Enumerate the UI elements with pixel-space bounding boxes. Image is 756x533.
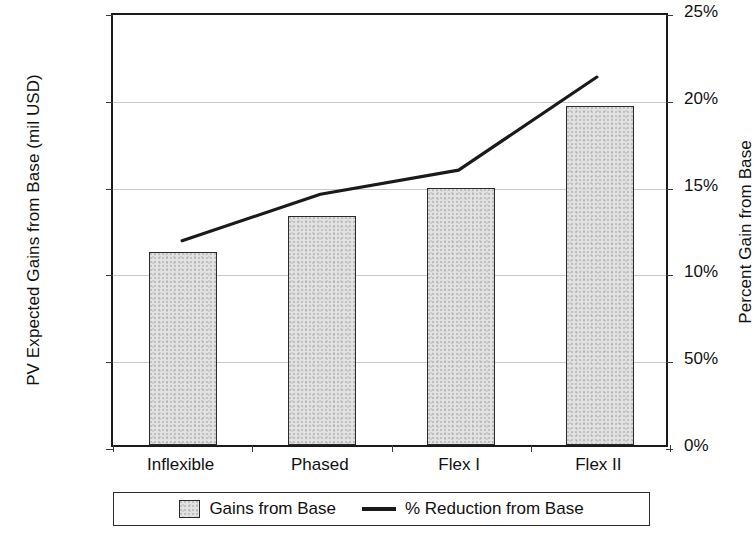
- x-axis-tick: [670, 445, 671, 452]
- plot-area: [111, 13, 668, 447]
- y-axis-right-tick: [666, 362, 673, 363]
- bar: [149, 252, 217, 445]
- y-axis-left-tick: [106, 102, 113, 103]
- x-axis-tick-label: Phased: [240, 455, 400, 475]
- bar: [427, 188, 495, 445]
- y-axis-right-tick-label: 25%: [684, 2, 718, 22]
- x-axis-tick: [531, 445, 532, 452]
- y-axis-right-tick-label: 0%: [684, 436, 709, 456]
- legend-line-icon: [362, 507, 396, 511]
- y-axis-left-tick: [106, 15, 113, 16]
- y-axis-right-tick-label: 15%: [684, 176, 718, 196]
- legend-swatch-icon: [179, 500, 200, 518]
- legend-entry-bar: Gains from Base: [179, 499, 336, 519]
- y-axis-right-tick-label: 50%: [684, 349, 718, 369]
- y-axis-right-tick: [666, 189, 673, 190]
- y-axis-right-tick: [666, 102, 673, 103]
- x-axis-tick: [252, 445, 253, 452]
- y-axis-left-tick: [106, 449, 113, 450]
- x-axis-tick: [113, 445, 114, 452]
- x-axis-tick-label: Inflexible: [101, 455, 261, 475]
- y-axis-right-tick-label: 20%: [684, 89, 718, 109]
- y-axis-left-tick: [106, 275, 113, 276]
- legend-label-bar: Gains from Base: [209, 499, 336, 519]
- x-axis-tick-label: Flex II: [518, 455, 678, 475]
- x-axis-tick: [392, 445, 393, 452]
- y-axis-left-tick: [106, 189, 113, 190]
- y-axis-right-tick: [666, 15, 673, 16]
- legend-label-line: % Reduction from Base: [405, 499, 584, 519]
- y-axis-left-title: PV Expected Gains from Base (mil USD): [24, 20, 44, 440]
- y-axis-right-tick: [666, 275, 673, 276]
- y-axis-right-tick-label: 10%: [684, 262, 718, 282]
- plot-inner: [113, 15, 666, 445]
- bar: [288, 216, 356, 445]
- chart-legend: Gains from Base % Reduction from Base: [113, 492, 650, 526]
- legend-entry-line: % Reduction from Base: [362, 499, 584, 519]
- y-axis-left-tick: [106, 362, 113, 363]
- y-axis-right-title: Percent Gain from Base: [736, 32, 756, 432]
- x-axis-tick-label: Flex I: [379, 455, 539, 475]
- gridline: [113, 102, 666, 103]
- bar: [566, 106, 634, 445]
